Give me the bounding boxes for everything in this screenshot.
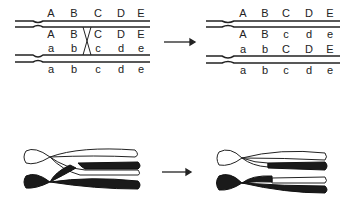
gene-label: A	[237, 8, 249, 19]
gene-label: c	[92, 43, 104, 54]
gene-label: d	[115, 43, 127, 54]
chromatid-pair-2-before	[15, 55, 150, 62]
gene-label: D	[303, 44, 315, 55]
gene-label: E	[135, 8, 147, 19]
gene-label: c	[280, 29, 292, 40]
gene-label: b	[259, 65, 271, 76]
gene-label: e	[324, 29, 336, 40]
gene-label: D	[115, 29, 127, 40]
arrow-bottom	[162, 169, 191, 175]
chromatid-pair-1-after	[206, 21, 340, 27]
chromatid-pair-1-before	[15, 21, 150, 27]
gene-label: C	[92, 8, 104, 19]
gene-label: d	[303, 65, 315, 76]
gene-label: C	[280, 44, 292, 55]
gene-label: c	[92, 64, 104, 75]
gene-label: a	[237, 65, 249, 76]
arrow-top	[164, 39, 195, 45]
gene-label: e	[135, 43, 147, 54]
gene-label: b	[68, 64, 80, 75]
chromatid-pair-2-after	[206, 56, 340, 63]
gene-label: e	[324, 65, 336, 76]
gene-label: A	[45, 29, 57, 40]
gene-label: e	[135, 64, 147, 75]
gene-label: A	[45, 8, 57, 19]
gene-label: A	[237, 29, 249, 40]
gene-label: E	[135, 29, 147, 40]
gene-label: B	[259, 29, 271, 40]
gene-label: B	[259, 8, 271, 19]
gene-label: E	[324, 44, 336, 55]
gene-label: C	[92, 29, 104, 40]
crossover-x	[83, 27, 91, 55]
gene-label: D	[115, 8, 127, 19]
gene-label: c	[280, 65, 292, 76]
gene-label: d	[115, 64, 127, 75]
gene-label: E	[324, 8, 336, 19]
gene-label: a	[237, 44, 249, 55]
gene-label: b	[259, 44, 271, 55]
gene-label: b	[68, 43, 80, 54]
gene-label: a	[45, 43, 57, 54]
gene-label: B	[68, 8, 80, 19]
gene-label: a	[45, 64, 57, 75]
gene-label: C	[280, 8, 292, 19]
gene-label: B	[68, 29, 80, 40]
gene-label: D	[303, 8, 315, 19]
gene-label: d	[303, 29, 315, 40]
